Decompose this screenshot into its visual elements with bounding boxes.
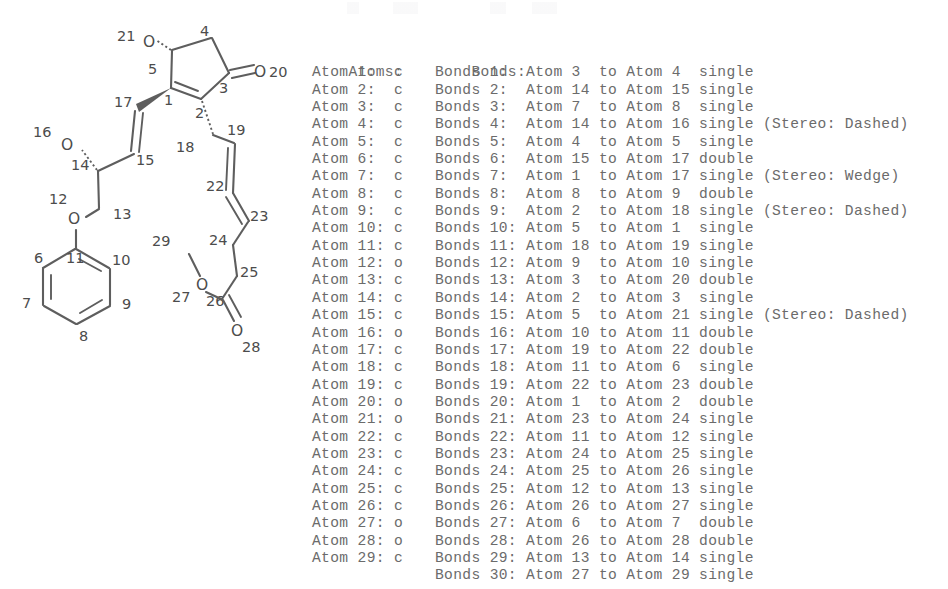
atom-number-8: 8 — [79, 328, 88, 344]
atom-number-18: 18 — [176, 139, 194, 155]
atom-symbol-o27: O — [196, 276, 208, 294]
atom-entry: Atom 5: c — [312, 134, 435, 151]
bond-entry: Bonds 29: Atom 13 to Atom 14 single — [435, 550, 754, 567]
atom-number-19: 19 — [227, 122, 245, 138]
bond-17-15-b — [139, 113, 143, 152]
atom-entry: Atom 14: c — [312, 290, 435, 307]
atom-entry: Atom 20: o — [312, 394, 435, 411]
bond-entry: Bonds 25: Atom 12 to Atom 13 single — [435, 481, 754, 498]
table-row: Atom 21: oBonds 21: Atom 23 to Atom 24 s… — [312, 411, 948, 428]
bond-entry: Bonds 8: Atom 8 to Atom 9 double — [435, 186, 754, 203]
atom-number-17: 17 — [114, 94, 132, 110]
bond-entry: Bonds 26: Atom 26 to Atom 27 single — [435, 498, 754, 515]
bond-entry: Bonds 28: Atom 26 to Atom 28 double — [435, 533, 754, 550]
atom-number-23: 23 — [250, 208, 268, 224]
table-row: Atom 22: cBonds 22: Atom 11 to Atom 12 s… — [312, 429, 948, 446]
table-header-row: Atoms:Bonds: — [312, 47, 948, 64]
atom-entry: Atom 4: c — [312, 116, 435, 133]
bond-19-22-b — [226, 148, 228, 190]
bond-entry: Bonds 30: Atom 27 to Atom 29 single — [435, 567, 754, 584]
table-row: Atom 8: cBonds 8: Atom 8 to Atom 9 doubl… — [312, 186, 948, 203]
bond-entry: Bonds 3: Atom 7 to Atom 8 single — [435, 99, 754, 116]
atom-symbol-o21: O — [143, 33, 155, 51]
atom-number-2: 2 — [195, 105, 204, 121]
atom-number-24: 24 — [209, 232, 227, 248]
atom-entry: Atom 7: c — [312, 168, 435, 185]
atom-number-12: 12 — [49, 191, 67, 207]
bond-entry: Bonds 7: Atom 1 to Atom 17 single (Stere… — [435, 168, 900, 185]
bond-3-20-a — [230, 65, 254, 70]
atom-entry: Atom 6: c — [312, 151, 435, 168]
bond-27-29 — [189, 254, 200, 276]
bond-entry: Bonds 10: Atom 5 to Atom 1 single — [435, 220, 754, 237]
table-row: Atom 1: cBonds 1: Atom 3 to Atom 4 singl… — [312, 64, 948, 81]
atom-number-7: 7 — [22, 295, 31, 311]
atom-number-10: 10 — [112, 252, 130, 268]
atom-symbol-o20: O — [254, 63, 266, 81]
bond-26-28-a — [223, 300, 234, 321]
atom-entry: Atom 2: c — [312, 82, 435, 99]
bond-1-5 — [171, 51, 172, 88]
atom-entry: Atom 11: c — [312, 238, 435, 255]
table-row: Atom 2: cBonds 2: Atom 14 to Atom 15 sin… — [312, 82, 948, 99]
bond-entry: Bonds 27: Atom 6 to Atom 7 double — [435, 515, 754, 532]
atom-number-3: 3 — [219, 80, 228, 96]
atom-symbol-o12: O — [68, 210, 80, 228]
table-row: Atom 12: oBonds 12: Atom 9 to Atom 10 si… — [312, 255, 948, 272]
bond-9-8 — [77, 306, 110, 324]
atom-entry: Atom 21: o — [312, 411, 435, 428]
bond-entry: Bonds 20: Atom 1 to Atom 2 double — [435, 394, 754, 411]
bond-5-21-dashed — [156, 40, 171, 50]
atom-entry: Atom 16: o — [312, 325, 435, 342]
atom-symbol-o16: O — [61, 136, 73, 154]
bond-entry: Bonds 6: Atom 15 to Atom 17 double — [435, 151, 754, 168]
bond-entry: Bonds 11: Atom 18 to Atom 19 single — [435, 238, 754, 255]
atom-number-1: 1 — [164, 92, 173, 108]
table-rows: Atom 1: cBonds 1: Atom 3 to Atom 4 singl… — [312, 64, 948, 584]
bond-entry: Bonds 12: Atom 9 to Atom 10 single — [435, 255, 754, 272]
bond-22-23-a — [233, 193, 249, 221]
table-row: Atom 17: cBonds 17: Atom 19 to Atom 22 d… — [312, 342, 948, 359]
bond-entry: Bonds 5: Atom 4 to Atom 5 single — [435, 134, 754, 151]
bond-entry: Bonds 1: Atom 3 to Atom 4 single — [435, 64, 754, 81]
atom-number-6: 6 — [34, 250, 43, 266]
atom-number-21: 21 — [117, 28, 135, 44]
atom-number-13: 13 — [113, 206, 131, 222]
atom-entry: Atom 17: c — [312, 342, 435, 359]
bond-entry: Bonds 22: Atom 11 to Atom 12 single — [435, 429, 754, 446]
atom-entry: Atom 19: c — [312, 377, 435, 394]
atom-entry: Atom 25: c — [312, 481, 435, 498]
table-row: Atom 18: cBonds 18: Atom 11 to Atom 6 si… — [312, 359, 948, 376]
bond-24-25 — [233, 245, 237, 276]
bond-entry: Bonds 23: Atom 24 to Atom 25 single — [435, 446, 754, 463]
structure-svg: O 20 O 21 1 2 3 4 5 17 15 O 16 14 13 O 1… — [0, 0, 305, 589]
bond-entry: Bonds 17: Atom 19 to Atom 22 double — [435, 342, 754, 359]
table-row: Atom 25: cBonds 25: Atom 12 to Atom 13 s… — [312, 481, 948, 498]
bond-entry: Bonds 4: Atom 14 to Atom 16 single (Ster… — [435, 116, 909, 133]
atom-number-9: 9 — [122, 296, 131, 312]
bond-5-4 — [172, 38, 211, 50]
atom-number-4: 4 — [200, 23, 209, 39]
atom-number-16: 16 — [33, 124, 51, 140]
atom-number-5: 5 — [148, 61, 157, 77]
table-row: Atom 29: cBonds 29: Atom 13 to Atom 14 s… — [312, 550, 948, 567]
table-row: Atom 7: cBonds 7: Atom 1 to Atom 17 sing… — [312, 168, 948, 185]
table-row: Atom 27: oBonds 27: Atom 6 to Atom 7 dou… — [312, 515, 948, 532]
table-row: Atom 13: cBonds 13: Atom 3 to Atom 20 do… — [312, 272, 948, 289]
table-row: Atom 9: cBonds 9: Atom 2 to Atom 18 sing… — [312, 203, 948, 220]
bond-8-7 — [44, 306, 76, 324]
bond-entry: Bonds 19: Atom 22 to Atom 23 double — [435, 377, 754, 394]
table-row: Atom 26: cBonds 26: Atom 26 to Atom 27 s… — [312, 498, 948, 515]
atom-number-14: 14 — [71, 157, 89, 173]
table-row: Atom 15: cBonds 15: Atom 5 to Atom 21 si… — [312, 307, 948, 324]
table-row: Atom 4: cBonds 4: Atom 14 to Atom 16 sin… — [312, 116, 948, 133]
bond-23-24 — [233, 222, 248, 245]
bond-13-12 — [86, 209, 99, 217]
atom-entry: Atom 18: c — [312, 359, 435, 376]
table-row: Atom 16: oBonds 16: Atom 10 to Atom 11 d… — [312, 325, 948, 342]
bond-entry: Bonds 15: Atom 5 to Atom 21 single (Ster… — [435, 307, 909, 324]
atom-entry: Atom 15: c — [312, 307, 435, 324]
bond-19-22-a — [233, 144, 235, 193]
table-row: Atom 11: cBonds 11: Atom 18 to Atom 19 s… — [312, 238, 948, 255]
bond-entry: Bonds 21: Atom 23 to Atom 24 single — [435, 411, 754, 428]
